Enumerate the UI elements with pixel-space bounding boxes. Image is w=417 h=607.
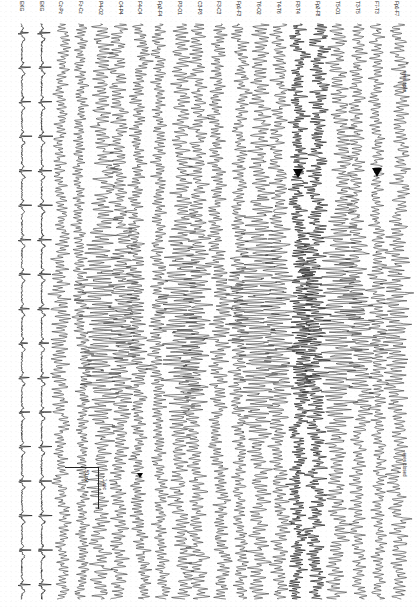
arrow-marker-3 [137,473,143,478]
trace-fp2-f8 [296,24,331,599]
trace-fp1-f7 [380,24,414,599]
channel-label-p3-o1: P3-O1 [177,1,183,15]
trace-p3-o1 [157,24,207,599]
trace-f7-t3 [365,24,388,599]
channel-label-fp2-f8: Fp2-F8 [315,1,321,16]
trace-ekg [18,24,32,599]
channel-label-c4-p4: C4-P4 [118,1,124,14]
trace-c3-p3 [177,24,213,599]
trace-f8-t4 [286,24,317,599]
channel-label-t5-o1: T5-O1 [335,1,341,14]
trace-f3-c3 [204,24,238,599]
trace-t4-t6 [260,24,297,599]
trace-f4-c4 [124,24,153,599]
channel-label-ekg: EKG [39,1,45,11]
eeg-chart: Fp1-F7F7-T3T3-T5T5-O1Fp2-F8F8-T4T4-T6T6-… [0,0,417,607]
channel-label-t4-t6: T4-T6 [276,1,282,14]
channel-label-fp1-f7: Fp1-F7 [394,1,400,16]
channel-label-c3-p3: C3-P3 [197,1,203,14]
arrow-marker-2 [293,169,303,178]
scalebar-time-line [98,467,99,509]
trace-fz-cz [71,24,95,599]
eeg-page: Fp1-F7F7-T3T3-T5T5-O1Fp2-F8F8-T4T4-T6T6-… [0,0,417,607]
scalebar-time-label: 1 sec [102,479,107,490]
trace-cz-pz [48,24,72,599]
arrow-marker-1 [372,168,382,177]
channel-label-fp1-f3: Fp1-F3 [236,1,242,16]
channel-label-f7-t3: F7-T3 [374,1,380,14]
rotated-chart-wrapper: Fp1-F7F7-T3T3-T5T5-O1Fp2-F8F8-T4T4-T6T6-… [0,0,417,607]
scalebar-amplitude-line [65,467,99,468]
channel-label-fp2-f4: Fp2-F4 [157,1,163,16]
channel-label-f3-c3: F3-C3 [216,1,222,14]
channel-label-t3-t5: T3-T5 [355,1,361,14]
eeg-traces [0,0,417,607]
channel-label-t6-o2: T6-O2 [256,1,262,14]
scalebar-amplitude-label: 50 µV [84,470,89,482]
channel-label-ekg: EKG [19,1,25,11]
channel-label-f4-c4: F4-C4 [137,1,143,14]
channel-label-cz-pz: Cz-Pz [58,1,64,14]
channel-label-f8-t4: F8-T4 [295,1,301,14]
trace-ekg [37,24,53,599]
trace-fp2-f4 [146,24,171,599]
eyes-closed-annotation: eyes closed [402,452,407,476]
channel-label-p4-o2: P4-O2 [98,1,104,15]
channel-label-fz-cz: Fz-Cz [78,1,84,14]
trace-t6-o2 [225,24,287,599]
eyes-open-annotation: eyes open [402,71,407,92]
